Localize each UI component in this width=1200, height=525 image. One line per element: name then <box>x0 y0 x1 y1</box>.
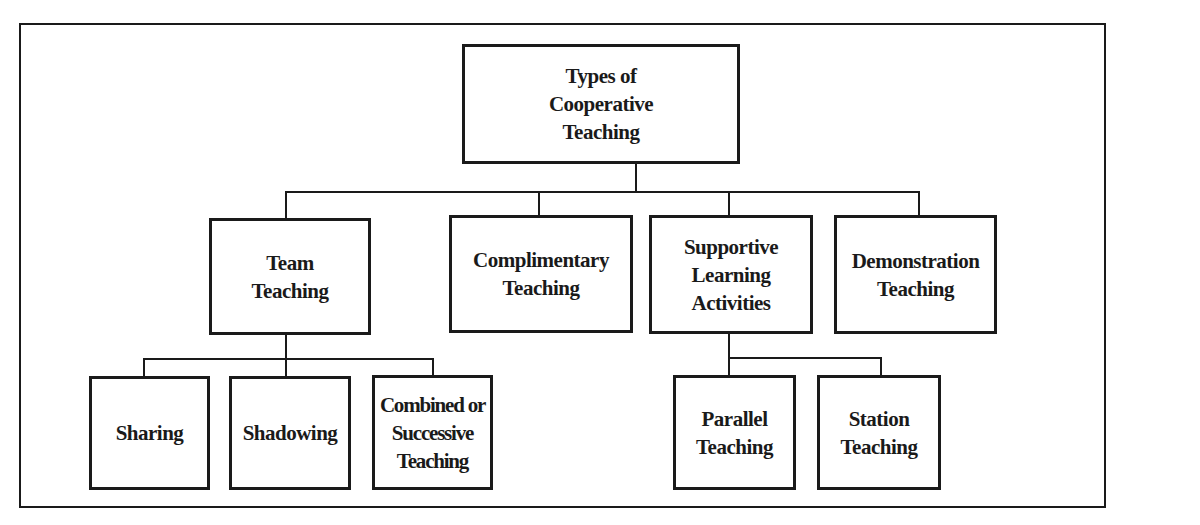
connector-complimentary <box>538 191 540 216</box>
node-combined-or-successive-teaching: Combined or Successive Teaching <box>372 375 493 490</box>
connector-demonstration <box>918 191 920 216</box>
node-team-teaching: Team Teaching <box>209 218 371 335</box>
node-label: Complimentary Teaching <box>473 246 609 302</box>
node-label: Supportive Learning Activities <box>684 233 778 317</box>
connector-supportive <box>728 191 730 216</box>
node-label: Sharing <box>116 419 184 447</box>
connector-combined <box>432 358 434 376</box>
node-sharing: Sharing <box>89 376 210 490</box>
connector-team <box>285 191 287 219</box>
node-supportive-learning-activities: Supportive Learning Activities <box>649 215 813 334</box>
node-label: Parallel Teaching <box>696 405 773 461</box>
connector-team-bus <box>143 358 434 360</box>
connector-sharing <box>143 358 145 377</box>
node-label: Team Teaching <box>252 249 329 305</box>
node-complimentary-teaching: Complimentary Teaching <box>449 215 633 333</box>
node-station-teaching: Station Teaching <box>817 375 941 490</box>
node-shadowing: Shadowing <box>229 376 351 490</box>
connector-team-stem <box>285 333 287 377</box>
connector-root-stem <box>635 162 637 193</box>
node-label: Types of Cooperative Teaching <box>549 62 653 146</box>
node-label: Shadowing <box>243 419 338 447</box>
connector-level1-bus <box>285 191 920 193</box>
connector-supportive-bus <box>728 357 882 359</box>
node-label: Station Teaching <box>841 405 918 461</box>
node-label: Demonstration Teaching <box>852 247 980 303</box>
node-parallel-teaching: Parallel Teaching <box>673 375 796 490</box>
connector-station <box>880 357 882 376</box>
node-label: Combined or Successive Teaching <box>380 391 485 475</box>
node-demonstration-teaching: Demonstration Teaching <box>834 215 997 334</box>
connector-supportive-stem <box>728 332 730 376</box>
node-types-of-cooperative-teaching: Types of Cooperative Teaching <box>462 44 740 164</box>
